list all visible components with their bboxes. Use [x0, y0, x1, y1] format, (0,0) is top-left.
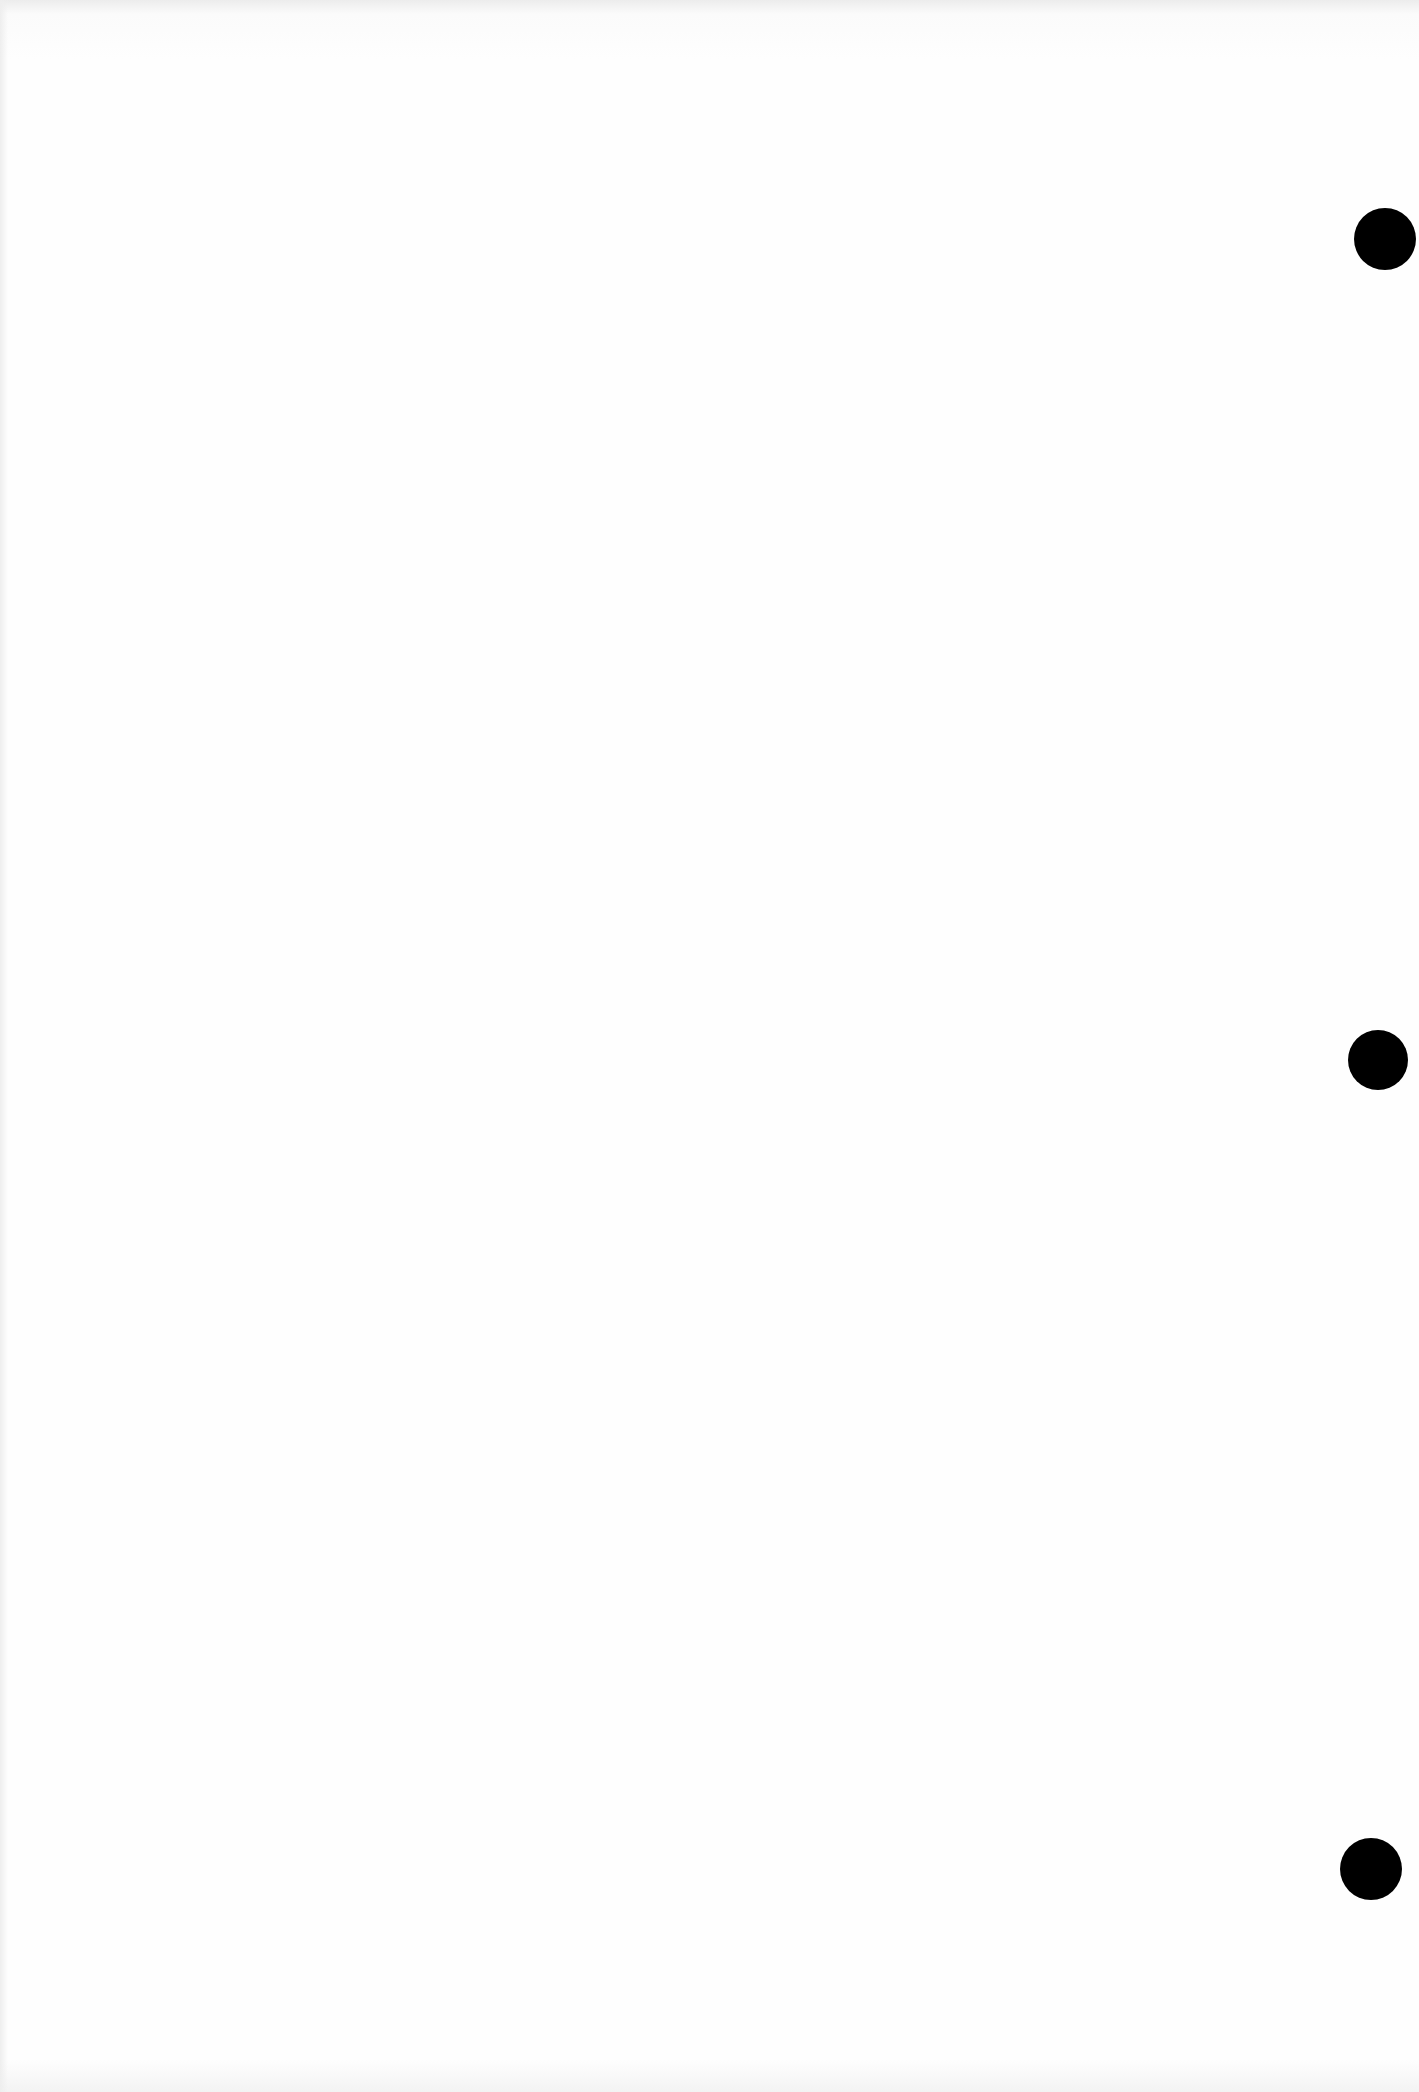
- punch-hole-bottom: [1340, 1838, 1402, 1900]
- punch-hole-top: [1354, 208, 1416, 270]
- blank-page: [0, 0, 1419, 2092]
- punch-hole-middle: [1348, 1030, 1408, 1090]
- scan-edge-shadow: [0, 0, 8, 2092]
